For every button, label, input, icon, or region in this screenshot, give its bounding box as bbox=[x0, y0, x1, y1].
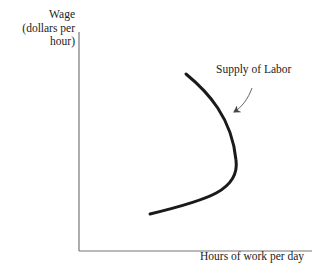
supply-of-labor-label: Supply of Labor bbox=[216, 63, 291, 75]
x-axis-label: Hours of work per day bbox=[200, 250, 304, 262]
supply-of-labor-curve bbox=[150, 74, 236, 214]
chart-plot bbox=[0, 0, 324, 266]
annotation-arrow bbox=[234, 88, 252, 112]
